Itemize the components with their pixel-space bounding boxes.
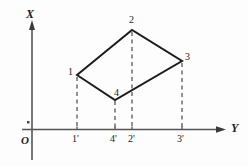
- y-axis: [22, 126, 226, 132]
- x-axis-arrowhead: [29, 20, 35, 30]
- diagram-svg: [0, 0, 248, 166]
- figure-canvas: X Y O 1 2 3 4 1' 4' 2' 3': [0, 0, 248, 166]
- origin-label: O: [21, 135, 29, 146]
- vertex-label-2: 2: [129, 15, 134, 25]
- parallelogram-outline: [77, 30, 182, 100]
- tick-label-3p: 3': [177, 134, 184, 144]
- tick-label-4p: 4': [110, 134, 117, 144]
- x-axis-label: X: [26, 8, 34, 20]
- y-axis-label: Y: [231, 122, 238, 134]
- tick-label-2p: 2': [128, 134, 135, 144]
- tick-label-1p: 1': [72, 134, 79, 144]
- vertex-label-1: 1: [68, 67, 73, 77]
- vertex-label-3: 3: [185, 52, 190, 62]
- vertex-label-4: 4: [114, 88, 119, 98]
- projection-lines: [77, 32, 182, 129]
- y-axis-arrowhead: [216, 126, 226, 132]
- parallelogram-shape: [77, 30, 182, 100]
- x-axis-tick: [27, 121, 30, 124]
